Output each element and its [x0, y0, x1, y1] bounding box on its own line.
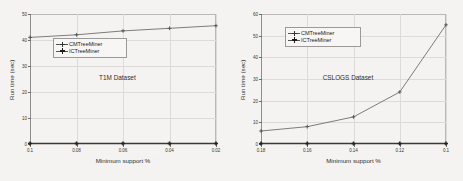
- chart-legend: CMTreeMinerICTreeMiner: [53, 38, 127, 58]
- data-point-marker: [259, 142, 263, 146]
- legend-item[interactable]: ICTreeMiner: [56, 48, 123, 55]
- legend-label: CMTreeMiner: [69, 41, 102, 47]
- data-point-marker: [259, 129, 263, 133]
- data-point-marker: [75, 33, 79, 37]
- legend-item[interactable]: CMTreeMiner: [288, 30, 357, 37]
- data-point-marker: [214, 141, 218, 145]
- data-point-marker: [168, 26, 172, 30]
- legend-marker-plus-icon: [288, 37, 300, 44]
- legend-label: CMTreeMiner: [301, 30, 334, 36]
- series-layer: [0, 0, 231, 181]
- legend-item[interactable]: CMTreeMiner: [56, 41, 123, 48]
- legend-marker-plus-icon: [288, 30, 300, 37]
- data-point-marker: [168, 141, 172, 145]
- chart-panel-t1m: 010203040500.10.080.060.040.02Minimum su…: [0, 0, 231, 181]
- legend-marker-plus-icon: [56, 41, 68, 48]
- data-point-marker: [121, 29, 125, 33]
- chart-legend: CMTreeMinerICTreeMiner: [285, 27, 361, 47]
- data-point-marker: [305, 125, 309, 129]
- legend-item[interactable]: ICTreeMiner: [288, 37, 357, 44]
- data-point-marker: [28, 141, 32, 145]
- legend-label: ICTreeMiner: [301, 37, 331, 43]
- chart-panel-cslogs: 01020304050600.180.160.140.120.1Minimum …: [231, 0, 462, 181]
- data-point-marker: [214, 24, 218, 28]
- data-point-marker: [28, 36, 32, 40]
- data-point-marker: [444, 142, 448, 146]
- data-point-marker: [352, 142, 356, 146]
- data-point-marker: [75, 141, 79, 145]
- data-point-marker: [121, 141, 125, 145]
- legend-label: ICTreeMiner: [69, 48, 99, 54]
- data-point-marker: [352, 115, 356, 119]
- data-point-marker: [305, 142, 309, 146]
- data-point-marker: [398, 142, 402, 146]
- figure-canvas: 010203040500.10.080.060.040.02Minimum su…: [0, 0, 463, 181]
- legend-marker-plus-icon: [56, 48, 68, 55]
